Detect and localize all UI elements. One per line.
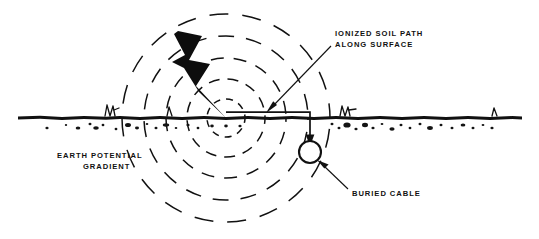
diagram-canvas: IONIZED SOIL PATH ALONG SURFACE BURIED C… (0, 0, 539, 239)
grass-tuft-right (340, 106, 356, 116)
buried-cable-leader-line (324, 166, 348, 189)
earth-gradient-label-line1: EARTH POTENTIAL (57, 151, 143, 160)
grass-tuft-far-right (492, 108, 497, 116)
ground-surface-line (18, 116, 522, 120)
buried-cable-circle (299, 141, 321, 163)
lightning-strike-diagram: IONIZED SOIL PATH ALONG SURFACE BURIED C… (0, 0, 539, 239)
earth-potential-gradient-callout: EARTH POTENTIAL GRADIENT (57, 151, 143, 171)
grass-tuft-left (105, 105, 119, 116)
soil-specks (45, 122, 493, 130)
lightning-bolt (172, 31, 226, 118)
buried-cable-label: BURIED CABLE (352, 189, 421, 198)
earth-gradient-label-line2: GRADIENT (83, 162, 130, 171)
buried-cable-callout: BURIED CABLE (317, 160, 421, 198)
grass-tuft-mid (167, 107, 172, 116)
grass-tufts (105, 105, 497, 116)
ionized-path-label-line2: ALONG SURFACE (335, 40, 413, 49)
ionized-path-callout: IONIZED SOIL PATH ALONG SURFACE (266, 29, 423, 113)
ionized-path-label-line1: IONIZED SOIL PATH (335, 29, 423, 38)
